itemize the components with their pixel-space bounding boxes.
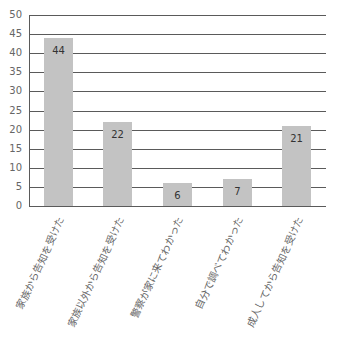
bar-value-label: 7: [223, 186, 252, 197]
y-tick-label: 25: [2, 106, 22, 116]
gridline: [29, 206, 326, 207]
bar-chart: 05101520253035404550 44226721 家族から告知を受けた…: [0, 0, 338, 339]
y-tick-label: 50: [2, 10, 22, 20]
x-tick-label: 家族から告知を受けた: [14, 215, 67, 311]
x-tick-label: 成人してから告知を受けた: [245, 215, 307, 329]
x-tick-label: 警察が家に来てわかった: [129, 215, 186, 320]
y-tick-label: 35: [2, 67, 22, 77]
bar-value-label: 21: [282, 133, 311, 144]
gridline: [29, 34, 326, 35]
bar: 7: [223, 179, 252, 206]
bar: 22: [103, 122, 132, 206]
y-tick-label: 30: [2, 86, 22, 96]
bar-value-label: 6: [163, 190, 192, 201]
y-tick-label: 5: [2, 182, 22, 192]
y-tick-label: 45: [2, 29, 22, 39]
gridline: [29, 72, 326, 73]
gridline: [29, 53, 326, 54]
bar-value-label: 44: [44, 45, 73, 56]
bar: 6: [163, 183, 192, 206]
bar-value-label: 22: [103, 129, 132, 140]
bar: 44: [44, 38, 73, 206]
x-tick-label: 家族以外から告知を受けた: [66, 215, 128, 329]
y-tick-label: 20: [2, 125, 22, 135]
bar: 21: [282, 126, 311, 206]
gridline: [29, 15, 326, 16]
gridline: [29, 91, 326, 92]
y-tick-label: 10: [2, 163, 22, 173]
x-tick-label: 自分で調べてわかった: [193, 215, 246, 311]
y-tick-label: 40: [2, 48, 22, 58]
y-tick-label: 15: [2, 144, 22, 154]
y-tick-label: 0: [2, 201, 22, 211]
gridline: [29, 111, 326, 112]
